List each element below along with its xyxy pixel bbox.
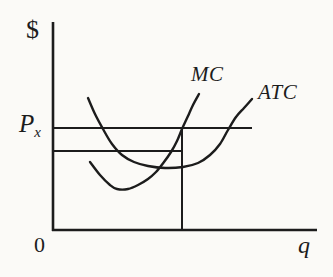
atc-curve-label: ATC (258, 82, 297, 103)
y-axis-dollar-label: $ (26, 17, 39, 43)
price-label-letter: P (19, 110, 34, 137)
atc-curve (88, 98, 252, 168)
price-label-subscript: x (34, 124, 41, 140)
price-label: Px (19, 111, 41, 140)
economics-cost-curve-figure: $ Px MC ATC 0 q (0, 0, 333, 277)
cost-curves-canvas (0, 0, 333, 277)
origin-label: 0 (34, 234, 45, 256)
mc-curve-label: MC (191, 64, 224, 85)
x-axis-quantity-label: q (298, 233, 310, 257)
